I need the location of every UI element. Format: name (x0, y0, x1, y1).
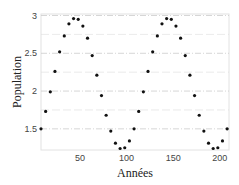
data-point (86, 37, 89, 40)
data-point (146, 70, 149, 73)
data-point (188, 74, 191, 77)
data-point (105, 114, 108, 117)
data-point (53, 70, 56, 73)
data-point (193, 94, 196, 97)
data-point (207, 142, 210, 145)
data-point (91, 54, 94, 57)
data-point (179, 37, 182, 40)
x-tick-label: 100 (119, 153, 134, 163)
data-point (137, 110, 140, 113)
x-tick-label: 200 (212, 153, 227, 163)
data-point (198, 114, 201, 117)
data-point (212, 147, 215, 150)
y-axis-ticks: 1.522.53 (24, 11, 37, 134)
data-point (114, 142, 117, 145)
data-point (123, 146, 126, 149)
data-point (165, 17, 168, 20)
data-point (63, 34, 66, 37)
data-point (72, 17, 75, 20)
data-point (216, 146, 219, 149)
gridlines (41, 16, 229, 129)
data-point (160, 22, 163, 25)
data-point (142, 90, 145, 93)
data-point (226, 127, 229, 130)
data-point (156, 34, 159, 37)
data-point (174, 24, 177, 27)
data-point (170, 18, 173, 21)
data-point (109, 130, 112, 133)
data-point (81, 24, 84, 27)
x-tick-label: 150 (166, 153, 181, 163)
y-tick-label: 2 (32, 86, 37, 96)
data-point (132, 127, 135, 130)
data-point (77, 18, 80, 21)
data-point (119, 147, 122, 150)
y-axis-title: Population (10, 56, 24, 108)
scatter-chart: 1.522.53 50100150200 Années Population (0, 0, 239, 185)
x-axis-ticks: 50100150200 (75, 153, 227, 163)
data-point (100, 94, 103, 97)
data-points (39, 17, 228, 150)
y-tick-label: 3 (32, 11, 37, 21)
data-point (221, 139, 224, 142)
data-point (202, 130, 205, 133)
data-point (128, 139, 131, 142)
data-point (184, 54, 187, 57)
data-point (49, 90, 52, 93)
data-point (44, 110, 47, 113)
y-tick-label: 1.5 (24, 124, 37, 134)
data-point (39, 127, 42, 130)
x-axis-title: Années (117, 166, 153, 180)
data-point (58, 50, 61, 53)
x-tick-label: 50 (75, 153, 85, 163)
data-point (95, 74, 98, 77)
data-point (67, 22, 70, 25)
data-point (151, 50, 154, 53)
y-tick-label: 2.5 (24, 48, 37, 58)
